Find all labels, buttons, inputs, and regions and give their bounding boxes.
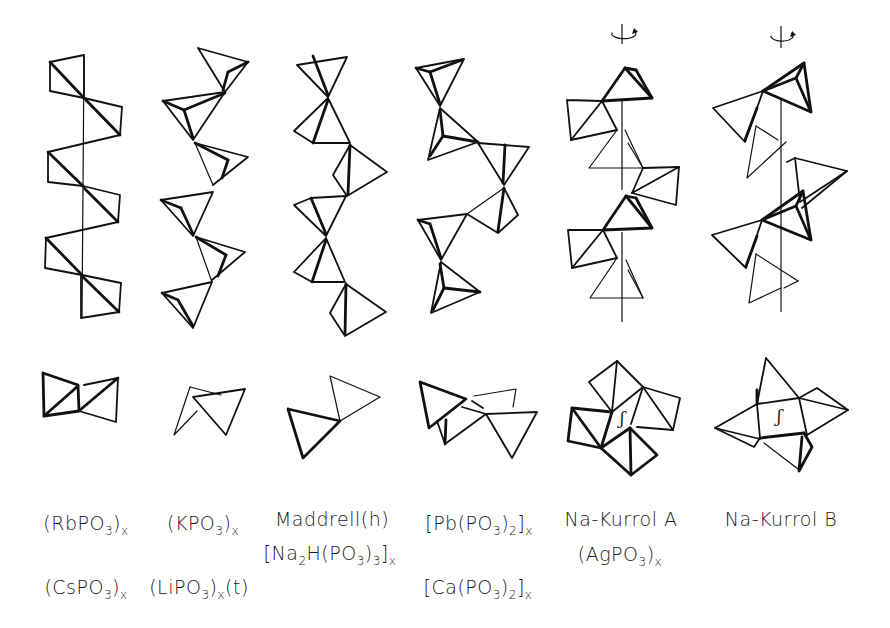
nakurrol-b-projection: ʃ	[715, 358, 848, 471]
label-lipo3: (LiPO3)x(t)	[149, 576, 249, 602]
label-pb-po3: [Pb(PO3)2]x	[425, 512, 533, 538]
label-ca-po3: [Ca(PO3)2]x	[424, 576, 533, 602]
label-nakurrol-b: Na-Kurrol B	[725, 508, 837, 530]
label-nakurrol-a: Na-Kurrol A	[565, 508, 678, 530]
nakurrol-a-chain-side-view	[567, 24, 679, 322]
nakurrol-b-chain-side-view	[712, 26, 847, 312]
kpo3-projection	[174, 387, 245, 435]
rbpo3-chain-side-view	[45, 55, 122, 318]
svg-text:ʃ: ʃ	[617, 409, 627, 428]
maddrell-projection	[288, 376, 380, 458]
kpo3-chain-side-view	[161, 48, 248, 328]
label-cspo3: (CsPO3)x	[44, 576, 127, 602]
nakurrol-a-projection: ʃ	[568, 361, 680, 475]
maddrell-chain-side-view	[294, 56, 387, 336]
svg-text:ʃ: ʃ	[774, 407, 784, 426]
polyphosphate-chain-figure: ʃ ʃ (RbPO3)x (CsPO3)x (KPO3)x (LiPO3)x(t…	[0, 0, 890, 628]
rbpo3-projection	[43, 373, 118, 422]
label-na2h-po3: [Na2H(PO3)3]x	[264, 542, 397, 568]
label-kpo3: (KPO3)x	[167, 512, 239, 538]
label-agpo3: (AgPO3)x	[578, 543, 662, 569]
pb-projection	[420, 382, 537, 458]
label-rbpo3: (RbPO3)x	[43, 512, 128, 538]
pb-chain-side-view	[416, 59, 529, 313]
label-maddrell: Maddrell(h)	[275, 508, 389, 530]
